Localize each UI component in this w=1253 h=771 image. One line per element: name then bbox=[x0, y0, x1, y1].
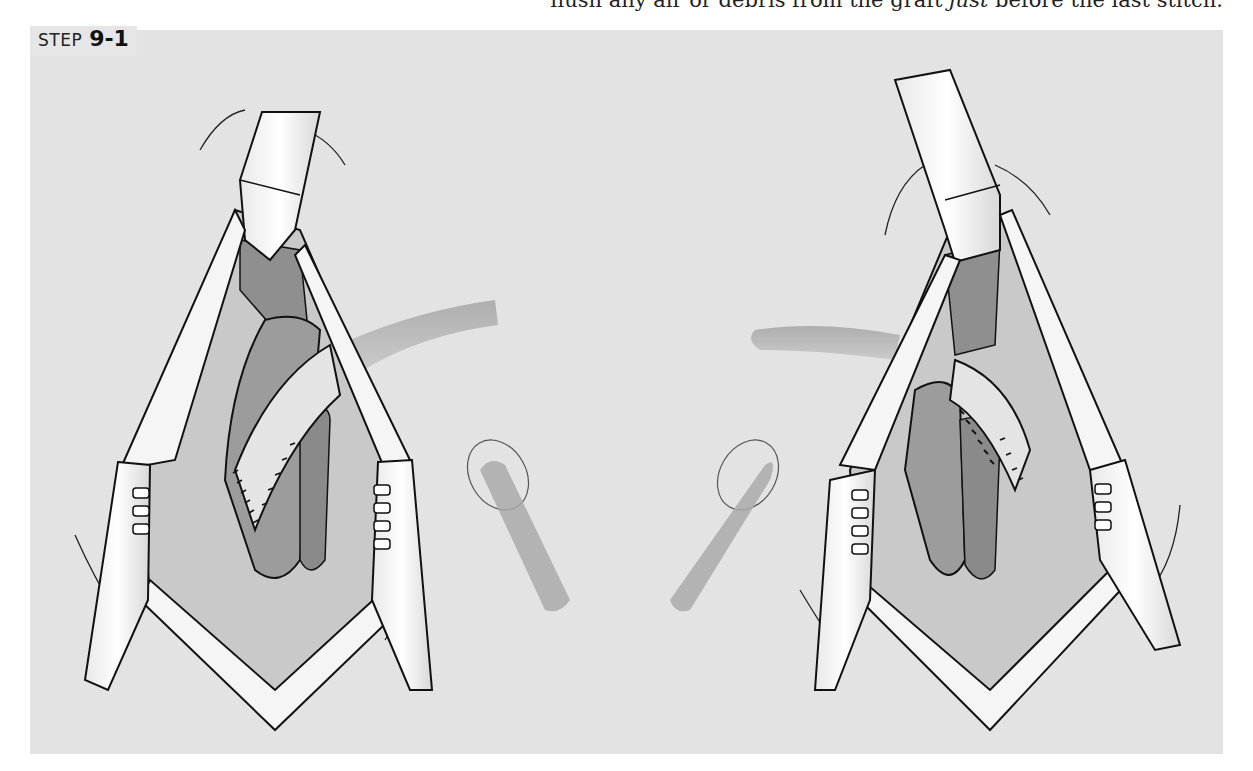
right-surgical-view bbox=[800, 70, 1180, 730]
center-vessel-shapes bbox=[350, 300, 900, 611]
step-label: STEP 9-1 bbox=[30, 26, 137, 56]
left-surgical-view bbox=[75, 110, 432, 730]
step-number: 9-1 bbox=[89, 26, 129, 51]
step-word: STEP bbox=[38, 30, 82, 50]
surgical-illustration bbox=[0, 0, 1253, 771]
